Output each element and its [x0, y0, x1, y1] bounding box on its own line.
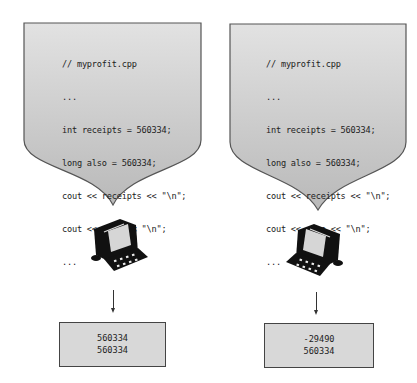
output-line: 560334 [97, 333, 128, 345]
code-line: ... [62, 92, 186, 103]
output-line: 560334 [97, 345, 128, 357]
code-line: int receipts = 560334; [266, 125, 390, 136]
code-line: // myprofit.cpp [266, 59, 390, 70]
output-box-left: 560334 560334 [59, 322, 166, 367]
code-line: cout << receipts << "\n"; [62, 191, 186, 202]
arrow-down-icon [111, 308, 115, 313]
output-line: -29490 [303, 334, 334, 346]
code-line: long also = 560334; [62, 158, 186, 169]
arrow-down-icon [113, 290, 114, 309]
arrow-down-icon [316, 292, 317, 311]
code-line: // myprofit.cpp [62, 59, 186, 70]
arrow-down-icon [314, 310, 318, 315]
computer-icon [282, 220, 344, 280]
code-line: int receipts = 560334; [62, 125, 186, 136]
code-line: ... [266, 92, 390, 103]
code-line: cout << receipts << "\n"; [266, 191, 390, 202]
output-line: 560334 [303, 346, 334, 358]
computer-icon [90, 215, 152, 275]
output-box-right: -29490 560334 [264, 323, 374, 368]
code-line: long also = 560334; [266, 158, 390, 169]
